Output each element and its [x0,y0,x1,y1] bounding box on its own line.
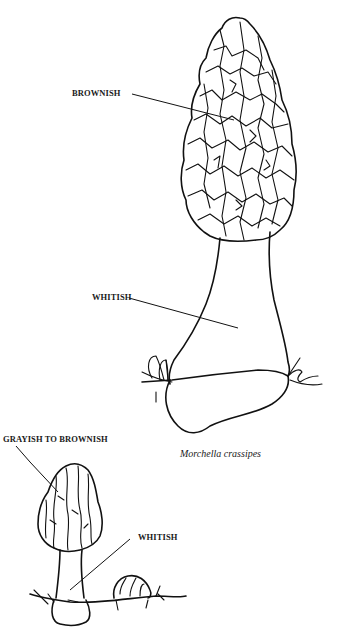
species-caption: Morchella crassipes [180,448,261,459]
morel-illustration: BROWNISH WHITISH Morchella crassipes GRA… [0,0,337,644]
small-morel-cap [38,464,102,551]
leader-small-cap [16,446,58,492]
label-large-cap-color: BROWNISH [72,88,121,98]
label-small-cap-color: GRAYISH TO BROWNISH [3,434,108,444]
small-morel-stem [30,550,186,625]
leader-small-stem [70,539,130,590]
label-small-stem-color: WHITISH [138,532,177,542]
large-morel-stem [142,232,322,433]
large-morel-cap [181,17,296,241]
label-large-stem-color: WHITISH [92,292,131,302]
young-morel [114,576,164,610]
leader-large-cap [132,94,234,120]
leader-large-stem [129,298,238,328]
illustration-drawing [0,0,337,644]
